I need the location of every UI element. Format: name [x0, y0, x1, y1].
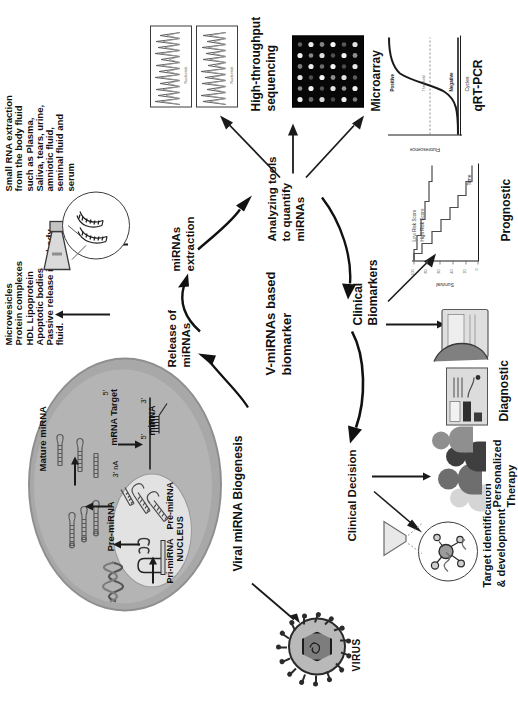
label-personalized-therapy-line1: Personalized — [492, 439, 504, 507]
label-mrna-target: mRNA Target — [110, 388, 120, 445]
label-5prime-mid: 5' — [140, 433, 148, 439]
prognostic-ytick: 60 — [437, 269, 441, 273]
prognostic-ytick: 80 — [424, 269, 428, 273]
prognostic-ytick: 40 — [450, 269, 454, 273]
label-analyzing-line3: miRNAs — [294, 196, 306, 241]
virus-spikes-group — [288, 621, 342, 675]
label-diagnostic: Diagnostic — [498, 360, 511, 421]
label-target-identification-line2: & development — [496, 508, 508, 587]
mature-mirna-icon — [48, 423, 110, 479]
pre-mirna-cytoplasm-icon — [62, 485, 104, 547]
sequencing-axis-label-top: Nucleotide — [184, 66, 188, 83]
arrowhead-dna-to-nucleus — [149, 556, 157, 564]
label-poly-a: 3' nA — [112, 460, 120, 477]
label-nucleus: NUCLEUS — [176, 515, 186, 561]
qrtpcr-ylabel: Fluorescence — [410, 147, 440, 153]
extraction-note-line: serum — [66, 19, 76, 191]
label-3prime: 3' — [140, 397, 148, 403]
extraction-note-line: from the body fluid — [14, 19, 24, 191]
microarray-icon — [292, 35, 364, 107]
arrowhead-mature-to-mrna — [135, 441, 143, 449]
label-pri-mirna: Pri-miRNA — [166, 538, 176, 583]
arrow-dna-to-nucleus — [152, 563, 154, 583]
prognostic-ytick: 100 — [411, 269, 415, 275]
label-mirnas-extraction-line1: miRNAs — [170, 226, 182, 271]
arrow-extraction-to-analyzing — [196, 185, 258, 251]
sequencing-axis-label-bottom: Nucleotide — [230, 66, 234, 83]
extraction-note: Small RNA extraction from the body fluid… — [4, 19, 76, 191]
diagnostic-instrument-detail — [448, 371, 484, 423]
arrowhead-pre-to-mature — [71, 456, 79, 464]
label-high-throughput-sequencing-line1: High-throughput — [250, 16, 263, 111]
arrowhead-pri-to-pre — [113, 541, 121, 549]
label-clinical-biomarkers-line1: Clinical — [352, 282, 365, 325]
label-high-throughput-sequencing-line2: sequencing — [265, 44, 278, 111]
personalized-therapy-icon — [428, 429, 486, 507]
prognostic-ytick: 20 — [463, 269, 467, 273]
prognostic-chart: 100 80 60 40 20 0 Low Risk Score High Ri… — [410, 157, 494, 281]
arrow-analyzing-to-sequencing — [214, 111, 284, 181]
label-prognostic: Prognostic — [500, 178, 513, 241]
arrow-pre-export — [92, 505, 112, 507]
magnified-mirna-icon — [72, 201, 120, 249]
prognostic-annotation-low-risk: Low Risk Score — [412, 209, 417, 241]
sequencing-trace-bottom — [198, 29, 228, 105]
sequencing-trace-top — [152, 29, 182, 105]
arrow-pri-to-pre — [120, 543, 140, 545]
label-mirna: miRNA — [148, 405, 158, 435]
arrow-virus-to-cell — [250, 579, 302, 625]
release-mode-item: Protein complexes — [14, 185, 24, 345]
pipette-icon — [382, 511, 424, 565]
label-5prime-top: 5' — [102, 389, 110, 395]
arrow-decision-to-therapy — [372, 475, 424, 477]
arrowhead-pre-export — [85, 503, 93, 511]
arrow-biomarkers-to-decision — [330, 327, 372, 461]
extraction-note-line: seminal fluid and — [55, 19, 65, 191]
qrtpcr-annotation-negative: Negative — [449, 72, 454, 91]
qrtpcr-annotation-threshold: Threshold — [422, 75, 426, 91]
arrow-release-to-extraction — [176, 269, 206, 333]
prognostic-ytick: 0 — [475, 268, 479, 270]
arrow-pre-to-mature — [74, 463, 76, 485]
arrow-biomarkers-to-diagnostic — [386, 323, 438, 325]
label-clinical-biomarkers-line2: Biomarkers — [367, 259, 380, 325]
label-clinical-decision: Clinical Decision — [346, 449, 358, 541]
label-microarray: Microarray — [370, 50, 383, 111]
diagnostic-analyzer-icon — [432, 303, 492, 365]
viral-dna-icon — [96, 559, 122, 603]
label-viral-mirna-biogenesis: Viral miRNA Biogenesis — [232, 435, 245, 571]
prognostic-ylabel: Survival — [436, 281, 454, 287]
pri-mirna-icon — [136, 535, 166, 575]
prognostic-xlabel: Time — [466, 174, 472, 185]
label-mature-mirna: Mature miRNA — [38, 406, 48, 471]
label-qrtpcr: qRT-PCR — [472, 59, 485, 111]
target-molecule-icon — [426, 529, 470, 573]
prognostic-annotation-high-risk: High Risk Score — [420, 208, 425, 241]
label-pre-mirna-nucleus: Pre-miRNA — [166, 481, 176, 529]
arrow-analyzing-to-qrtpcr — [302, 111, 372, 181]
qrtpcr-chart: Positive Threshold Negative Fluorescence… — [386, 31, 472, 151]
arrow-biogenesis-to-release — [196, 349, 252, 409]
arrow-mature-to-mrna — [118, 443, 136, 445]
qrtpcr-xlabel: Cycles — [464, 76, 470, 91]
label-biomarker-line1: V-miRNAs based — [264, 271, 278, 375]
label-analyzing-line2: to quantify — [280, 182, 292, 241]
label-virus: VIRUS — [352, 638, 363, 671]
label-mirnas-extraction-line2: extraction — [184, 216, 196, 271]
qrtpcr-annotation-positive: Positive — [390, 73, 395, 91]
arrow-analyzing-to-microarray — [286, 115, 300, 175]
label-personalized-therapy-line2: Therapy — [506, 464, 518, 507]
arrow-to-release-modes — [62, 313, 110, 315]
label-biomarker-line2: biomarker — [280, 312, 294, 375]
